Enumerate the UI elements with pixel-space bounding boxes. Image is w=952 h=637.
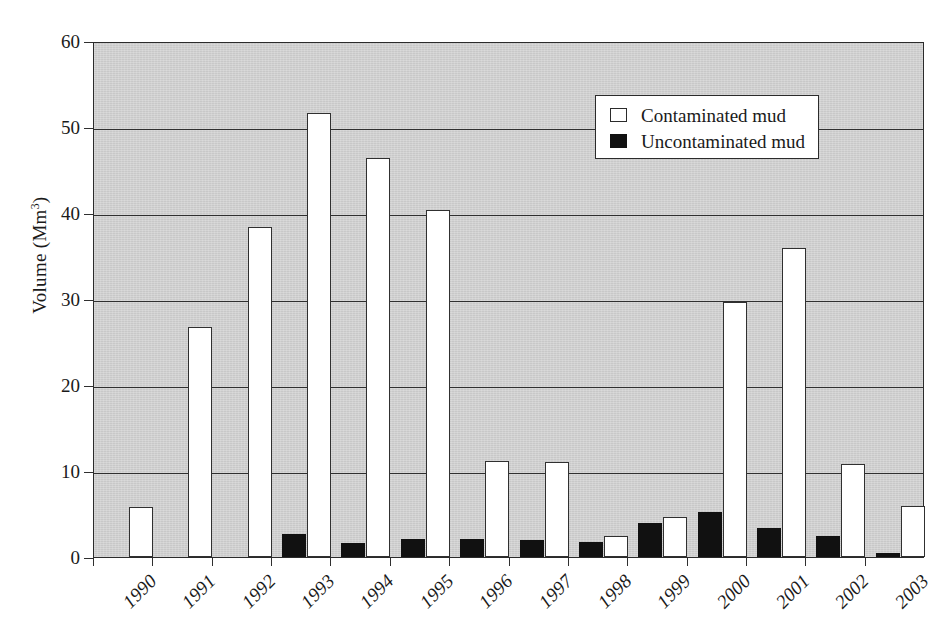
gridline-40: [94, 215, 923, 216]
x-tick-mark-1997: [509, 558, 510, 566]
y-tick-label-60: 60: [20, 31, 80, 53]
bar-contaminated-1996: [485, 461, 509, 557]
legend-swatch-uncontaminated-icon: [610, 134, 627, 148]
y-axis-title: Volume (Mm3): [29, 95, 51, 415]
x-tick-mark-2003: [865, 558, 866, 566]
x-tick-label-1996: 1996: [475, 570, 518, 613]
y-tick-mark-30: [84, 300, 93, 301]
bar-contaminated-1998: [604, 536, 628, 557]
x-tick-mark-2001: [746, 558, 747, 566]
x-tick-label-1998: 1998: [593, 570, 636, 613]
y-tick-label-0: 0: [20, 547, 80, 569]
x-tick-mark-1999: [627, 558, 628, 566]
x-tick-mark-2000: [687, 558, 688, 566]
x-tick-mark-2002: [805, 558, 806, 566]
bar-contaminated-1993: [307, 113, 331, 557]
x-tick-mark-1995: [390, 558, 391, 566]
bar-uncontaminated-1998: [579, 542, 603, 557]
x-tick-mark-1990: [93, 558, 94, 566]
bar-uncontaminated-2000: [698, 512, 722, 557]
y-tick-label-10: 10: [20, 461, 80, 483]
x-tick-mark-1992: [212, 558, 213, 566]
bar-contaminated-2003: [901, 506, 925, 557]
x-tick-label-1991: 1991: [178, 570, 221, 613]
x-tick-label-1994: 1994: [356, 570, 399, 613]
y-tick-label-50: 50: [20, 117, 80, 139]
chart-legend: Contaminated mud Uncontaminated mud: [595, 95, 819, 159]
bar-uncontaminated-1999: [638, 523, 662, 557]
y-tick-label-30: 30: [20, 289, 80, 311]
bar-contaminated-1995: [426, 210, 450, 557]
x-tick-label-2000: 2000: [712, 570, 755, 613]
x-tick-mark-1994: [330, 558, 331, 566]
legend-label-uncontaminated: Uncontaminated mud: [641, 132, 805, 151]
bar-contaminated-1992: [248, 227, 272, 557]
x-tick-label-1999: 1999: [653, 570, 696, 613]
x-tick-label-2003: 2003: [890, 570, 933, 613]
bar-contaminated-1994: [366, 158, 390, 557]
bar-chart: Volume (Mm3) 6050403020100 1990199119921…: [0, 0, 952, 637]
x-tick-label-2001: 2001: [771, 570, 814, 613]
x-tick-mark-1993: [271, 558, 272, 566]
bar-uncontaminated-2001: [757, 528, 781, 557]
legend-label-contaminated: Contaminated mud: [641, 106, 786, 125]
bar-uncontaminated-1993: [282, 534, 306, 557]
x-tick-label-1995: 1995: [415, 570, 458, 613]
legend-item-uncontaminated: Uncontaminated mud: [610, 128, 818, 154]
bar-contaminated-1991: [188, 327, 212, 557]
y-tick-mark-20: [84, 386, 93, 387]
bar-contaminated-2000: [723, 302, 747, 557]
x-tick-mark-1996: [449, 558, 450, 566]
x-tick-label-1997: 1997: [534, 570, 577, 613]
y-tick-mark-40: [84, 214, 93, 215]
legend-item-contaminated: Contaminated mud: [610, 102, 818, 128]
bar-uncontaminated-2003: [876, 553, 900, 557]
x-tick-label-2002: 2002: [831, 570, 874, 613]
x-tick-label-1993: 1993: [296, 570, 339, 613]
legend-swatch-contaminated-icon: [610, 108, 627, 122]
bar-contaminated-1990: [129, 507, 153, 557]
x-tick-mark-1991: [152, 558, 153, 566]
y-tick-label-40: 40: [20, 203, 80, 225]
bar-uncontaminated-1994: [341, 543, 365, 557]
bar-uncontaminated-2002: [816, 536, 840, 557]
bar-contaminated-1997: [545, 462, 569, 557]
bar-uncontaminated-1995: [401, 539, 425, 557]
bar-contaminated-2001: [782, 248, 806, 557]
x-tick-mark-1998: [568, 558, 569, 566]
y-tick-mark-10: [84, 472, 93, 473]
y-tick-label-20: 20: [20, 375, 80, 397]
bar-uncontaminated-1997: [520, 540, 544, 557]
x-tick-label-1992: 1992: [237, 570, 280, 613]
bar-uncontaminated-1996: [460, 539, 484, 557]
y-tick-mark-0: [84, 558, 93, 559]
bar-contaminated-2002: [841, 464, 865, 557]
bar-contaminated-1999: [663, 517, 687, 557]
x-tick-label-1990: 1990: [118, 570, 161, 613]
y-tick-mark-50: [84, 128, 93, 129]
y-tick-mark-60: [84, 42, 93, 43]
